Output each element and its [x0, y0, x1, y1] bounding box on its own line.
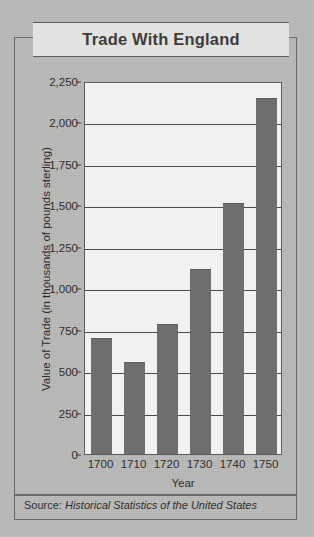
chart-page: Trade With England 02505007501,0001,2501… — [0, 0, 314, 537]
chart-title: Trade With England — [82, 30, 239, 49]
source-note: Source: Historical Statistics of the Uni… — [24, 499, 257, 511]
source-title: Historical Statistics of the United Stat… — [65, 499, 257, 511]
chart-title-plaque: Trade With England — [33, 22, 289, 57]
source-prefix: Source: — [24, 499, 65, 511]
figure-frame — [14, 37, 297, 520]
source-divider — [15, 494, 296, 496]
